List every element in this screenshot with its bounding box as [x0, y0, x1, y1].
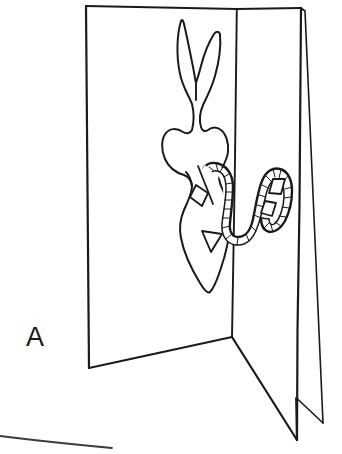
- streamer-right-cap: [261, 218, 269, 219]
- popup-card-illustration: [0, 0, 342, 454]
- figure-container: A: [0, 0, 342, 454]
- right-panel-top-edge: [237, 8, 301, 9]
- right-panel-notch: [296, 398, 297, 440]
- figure-panel-label: A: [26, 324, 44, 351]
